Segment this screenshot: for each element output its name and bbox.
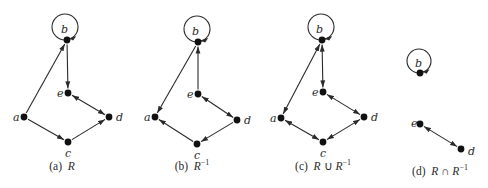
panel-caption-c: (c) R ∪ R−1	[295, 158, 351, 173]
node-a	[152, 114, 159, 121]
node-label-b: b	[192, 25, 199, 38]
edge-b-a	[157, 46, 195, 113]
node-a	[21, 114, 28, 121]
node-label-d: d	[116, 111, 123, 124]
edge-e-d	[424, 126, 457, 146]
node-e	[417, 121, 424, 128]
panel-caption-a: (a) R	[49, 160, 75, 173]
edge-a-c	[28, 119, 64, 139]
panel-a: abcde(a) R	[13, 14, 123, 173]
panel-caption-d: (d) R ∩ R−1	[412, 163, 468, 178]
edge-a-b	[283, 44, 320, 114]
node-b	[417, 70, 424, 77]
panel-caption-b: (b) R−1	[175, 158, 210, 173]
node-label-a: a	[270, 112, 277, 125]
node-e	[65, 90, 72, 97]
node-a	[278, 115, 285, 122]
edge-a-b	[26, 44, 65, 113]
node-label-e: e	[57, 87, 64, 100]
panel-b: abcde(b) R−1	[144, 16, 251, 173]
edge-a-c	[285, 120, 319, 139]
node-label-d: d	[244, 114, 251, 127]
node-label-a: a	[13, 111, 20, 124]
node-label-b: b	[61, 23, 68, 36]
edge-c-d	[72, 119, 105, 139]
panel-d: bde(d) R ∩ R−1	[407, 49, 475, 178]
relation-digraphs-figure: abcde(a) Rabcde(b) R−1abcde(c) R ∪ R−1bd…	[0, 0, 488, 188]
edge-e-d	[327, 94, 360, 114]
node-c	[194, 141, 201, 148]
edge-b-e	[67, 45, 68, 89]
edge-e-d	[202, 97, 233, 118]
node-e	[195, 91, 202, 98]
edge-c-a	[159, 119, 193, 141]
edge-c-d	[327, 119, 360, 139]
node-d	[458, 146, 465, 153]
edge-b-e	[322, 45, 323, 88]
node-b	[319, 37, 326, 44]
node-label-e: e	[411, 117, 418, 130]
node-label-c: c	[65, 147, 71, 160]
node-d	[234, 117, 241, 124]
node-label-b: b	[316, 23, 323, 36]
node-label-d: d	[468, 145, 475, 158]
node-label-c: c	[320, 147, 326, 160]
node-label-d: d	[371, 111, 378, 124]
node-label-e: e	[312, 86, 319, 99]
node-label-e: e	[187, 88, 194, 101]
node-b	[195, 39, 202, 46]
node-b	[64, 37, 71, 44]
node-c	[320, 139, 327, 146]
node-label-b: b	[415, 57, 422, 70]
panel-c: abcde(c) R ∪ R−1	[270, 14, 378, 173]
panels: abcde(a) Rabcde(b) R−1abcde(c) R ∪ R−1bd…	[13, 14, 475, 178]
node-d	[106, 114, 113, 121]
node-label-a: a	[144, 111, 151, 124]
node-c	[65, 139, 72, 146]
node-d	[361, 114, 368, 121]
edge-e-d	[72, 95, 105, 114]
edge-d-c	[201, 122, 233, 141]
node-e	[320, 89, 327, 96]
